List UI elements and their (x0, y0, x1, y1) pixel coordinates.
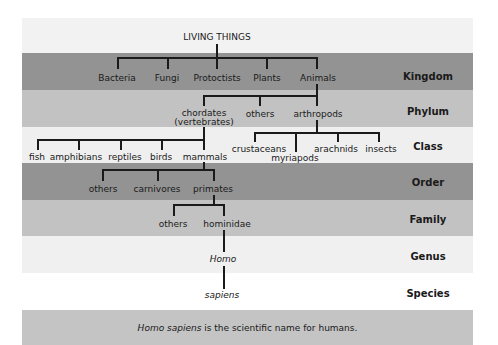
node-phylum-others: others (246, 109, 275, 119)
node-insects: insects (365, 144, 397, 154)
node-chordates-sublabel: (vertebrates) (174, 117, 233, 127)
connector (216, 44, 218, 57)
node-homo: Homo (210, 254, 237, 264)
species-band: Species (22, 273, 473, 310)
node-living-things: LIVING THINGS (183, 32, 250, 42)
connector (337, 132, 339, 142)
node-animals: Animals (300, 73, 336, 83)
connector (120, 139, 122, 150)
rank-label-genus: Genus (383, 251, 473, 263)
node-fish: fish (29, 152, 45, 162)
connector (316, 57, 318, 69)
node-primates: primates (193, 184, 233, 194)
node-chordates: chordates (vertebrates) (174, 109, 233, 127)
rank-label-order: Order (383, 177, 473, 189)
connector (203, 95, 205, 106)
kingdom-band: Kingdom (22, 53, 473, 90)
connector (259, 95, 261, 106)
connector (102, 169, 104, 181)
connector (161, 139, 163, 150)
connector (167, 57, 169, 69)
node-mammals: mammals (183, 152, 228, 162)
genus-band: Genus (22, 236, 473, 273)
rank-label-family: Family (383, 214, 473, 226)
node-arachnids: arachnids (314, 144, 358, 154)
connector (223, 266, 225, 289)
order-band: Order (22, 163, 473, 200)
connector (223, 230, 225, 252)
connector (266, 57, 268, 69)
node-family-others: others (159, 219, 188, 229)
footer-band: Homo sapiens is the scientific name for … (22, 310, 473, 345)
node-reptiles: reptiles (108, 152, 142, 162)
connector (254, 132, 256, 142)
node-order-others: others (89, 184, 118, 194)
node-plants: Plants (253, 73, 280, 83)
footer-italic-name: Homo sapiens (138, 323, 202, 333)
connector (37, 139, 39, 150)
connector (117, 57, 119, 69)
connector (173, 204, 175, 216)
node-arthropods: arthropods (293, 109, 342, 119)
footer-caption: Homo sapiens is the scientific name for … (22, 322, 473, 334)
node-myriapods: myriapods (271, 153, 318, 163)
node-amphibians: amphibians (50, 152, 102, 162)
rank-label-kingdom: Kingdom (383, 71, 473, 83)
connector (173, 204, 224, 206)
node-sapiens: sapiens (205, 290, 239, 300)
connector (216, 57, 218, 69)
connector (203, 139, 205, 150)
connector (254, 132, 379, 134)
connector (203, 95, 318, 97)
rank-label-phylum: Phylum (383, 106, 473, 118)
node-birds: birds (150, 152, 172, 162)
connector (78, 139, 80, 150)
node-hominidae: hominidae (203, 219, 250, 229)
footer-rest: is the scientific name for humans. (201, 323, 357, 333)
connector (223, 204, 225, 216)
family-band: Family (22, 200, 473, 236)
connector (316, 95, 318, 106)
rank-label-species: Species (383, 288, 473, 300)
node-carnivores: carnivores (134, 184, 181, 194)
node-fungi: Fungi (155, 73, 179, 83)
connector (213, 169, 215, 181)
connector (378, 132, 380, 142)
node-bacteria: Bacteria (98, 73, 135, 83)
node-protoctists: Protoctists (193, 73, 240, 83)
connector (117, 57, 318, 59)
connector (295, 132, 297, 152)
connector (157, 169, 159, 181)
